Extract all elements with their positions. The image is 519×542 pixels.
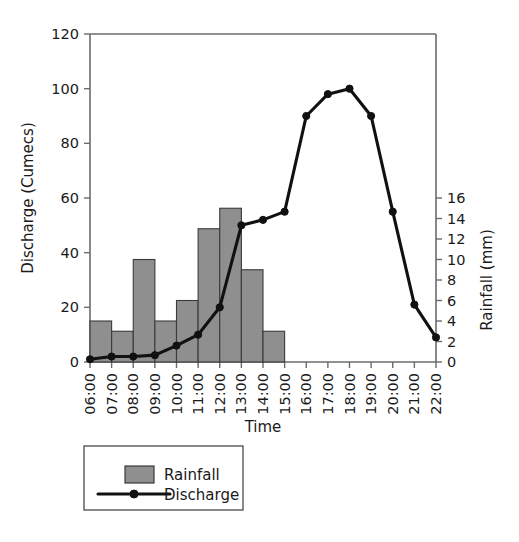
data-point: [281, 208, 288, 215]
bar: [177, 301, 199, 363]
x-tick-label: 14:00: [255, 373, 271, 415]
bar: [198, 229, 220, 362]
left-tick-label: 60: [61, 190, 79, 206]
x-tick-label: 20:00: [385, 373, 401, 415]
x-tick-label: 12:00: [212, 373, 228, 415]
left-tick-label: 40: [61, 245, 79, 261]
chart-canvas: 020406080100120 0246810121416 06:0007:00…: [0, 0, 519, 542]
x-tick-label: 11:00: [190, 373, 206, 415]
data-point: [432, 334, 439, 341]
x-tick-label: 22:00: [428, 373, 444, 415]
right-tick-label: 4: [447, 313, 456, 329]
left-tick-label: 0: [70, 354, 79, 370]
x-tick-label: 21:00: [406, 373, 422, 415]
x-tick-label: 16:00: [298, 373, 314, 415]
y-axis-title: Discharge (Cumecs): [19, 122, 37, 274]
chart-legend: Rainfall Discharge: [84, 446, 243, 510]
left-tick-label: 100: [51, 81, 79, 97]
data-point: [130, 353, 137, 360]
right-tick-label: 0: [447, 354, 456, 370]
x-tick-label: 15:00: [277, 373, 293, 415]
data-point: [389, 208, 396, 215]
hydrograph-chart: 020406080100120 0246810121416 06:0007:00…: [0, 0, 519, 542]
left-tick-label: 20: [61, 299, 79, 315]
x-tick-label: 10:00: [169, 373, 185, 415]
left-tick-label: 120: [51, 26, 79, 42]
data-point: [324, 91, 331, 98]
data-point: [86, 356, 93, 363]
data-point: [346, 85, 353, 92]
legend-marker-discharge: [130, 490, 138, 498]
legend-label-discharge: Discharge: [164, 486, 239, 504]
bar: [220, 208, 242, 362]
data-point: [259, 216, 266, 223]
x-tick-label: 07:00: [104, 373, 120, 415]
data-point: [238, 222, 245, 229]
right-tick-label: 14: [447, 211, 465, 227]
data-point: [108, 353, 115, 360]
data-point: [173, 342, 180, 349]
bar: [241, 270, 263, 362]
bar: [133, 260, 155, 363]
y2-axis-title: Rainfall (mm): [478, 229, 496, 330]
x-axis-title: Time: [244, 418, 282, 436]
data-point: [411, 301, 418, 308]
x-tick-label: 19:00: [363, 373, 379, 415]
data-point: [303, 112, 310, 119]
right-tick-label: 16: [447, 190, 465, 206]
right-tick-label: 10: [447, 252, 465, 268]
x-tick-label: 09:00: [147, 373, 163, 415]
data-point: [368, 112, 375, 119]
x-tick-label: 18:00: [342, 373, 358, 415]
data-point: [151, 352, 158, 359]
bar: [263, 331, 285, 362]
right-tick-label: 8: [447, 272, 456, 288]
x-tick-label: 17:00: [320, 373, 336, 415]
legend-swatch-rainfall: [125, 466, 154, 483]
x-tick-label: 13:00: [233, 373, 249, 415]
right-tick-label: 6: [447, 293, 456, 309]
right-tick-label: 12: [447, 231, 465, 247]
x-tick-label: 06:00: [82, 373, 98, 415]
left-tick-label: 80: [61, 135, 79, 151]
data-point: [216, 304, 223, 311]
data-point: [195, 331, 202, 338]
right-tick-label: 2: [447, 334, 456, 350]
x-tick-label: 08:00: [125, 373, 141, 415]
legend-label-rainfall: Rainfall: [164, 466, 220, 484]
